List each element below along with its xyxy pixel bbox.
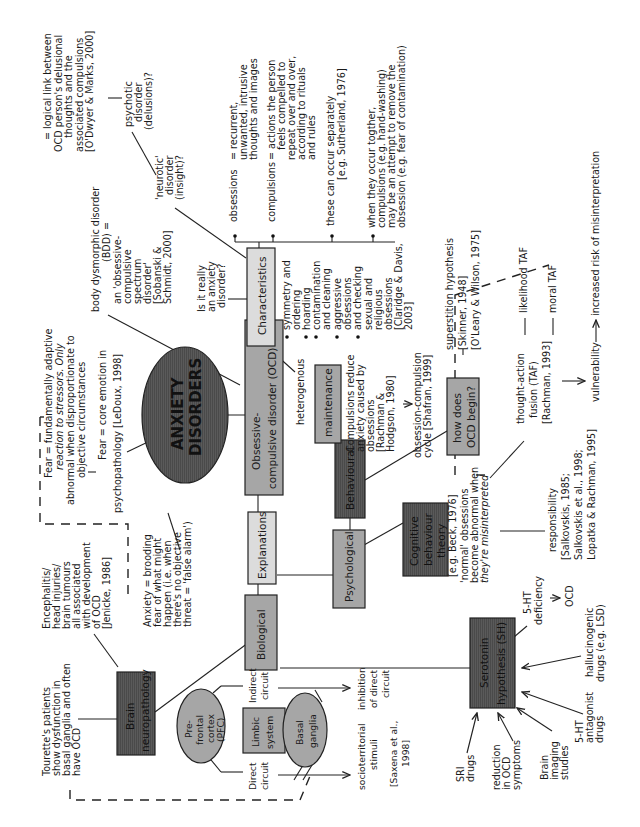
- svg-text:Direct: Direct: [247, 762, 258, 790]
- svg-text:and rules: and rules: [306, 115, 317, 160]
- svg-text:drugs: drugs: [594, 716, 605, 743]
- taf-note: thought-action fusion (TAF) [Rachman, 19…: [515, 341, 552, 424]
- characteristics-node: Characteristics: [247, 248, 275, 346]
- svg-text:Indirect: Indirect: [247, 668, 258, 703]
- svg-text:stimuli: stimuli: [368, 739, 379, 770]
- svg-text:and checking: and checking: [352, 266, 363, 330]
- biological-node: Biological: [245, 595, 277, 670]
- svg-text:Pre-: Pre-: [183, 720, 194, 738]
- svg-text:drugs (e.g. LSD): drugs (e.g. LSD): [595, 604, 606, 682]
- psychotic-note: psychotic disorder (delusions)?: [123, 72, 154, 130]
- svg-text:system: system: [264, 716, 275, 749]
- svg-text:Obsessive-: Obsessive-: [250, 413, 262, 470]
- svg-text:psychopathology [LeDoux, 1998]: psychopathology [LeDoux, 1998]: [112, 354, 123, 513]
- saxena-note: [Saxena et al., 1998]: [388, 720, 411, 787]
- 5ht-deficiency-note: 5-HT deficiency: [522, 576, 544, 625]
- svg-text:Characteristics: Characteristics: [256, 256, 268, 335]
- svg-text:and cleaning: and cleaning: [321, 268, 332, 330]
- svg-text:Serotonin: Serotonin: [478, 638, 490, 688]
- svg-text:[e.g. Beck, 1976]: [e.g. Beck, 1976]: [447, 495, 458, 577]
- svg-text:socioterritorial: socioterritorial: [356, 723, 367, 790]
- svg-text:= logical link between: = logical link between: [42, 33, 53, 140]
- svg-text:Salkovskis et al., 1998;: Salkovskis et al., 1998;: [573, 449, 584, 560]
- bdd-note: body dysmorphic disorder (BDD) = an 'obs…: [90, 187, 173, 312]
- svg-text:2003]: 2003]: [403, 302, 414, 330]
- psychological-node: Psychological: [333, 530, 365, 608]
- svg-text:Brain: Brain: [124, 702, 136, 730]
- compulsions-note: compulsions = actions the person feels c…: [266, 56, 317, 222]
- svg-text:heterogenous: heterogenous: [295, 359, 306, 425]
- svg-text:body dysmorphic disorder: body dysmorphic disorder: [90, 187, 101, 312]
- svg-text:they're misinterpreted: they're misinterpreted: [479, 474, 490, 583]
- socioterritorial-note: socioterritorial stimuli: [356, 723, 379, 790]
- svg-text:(PFC): (PFC): [215, 718, 226, 742]
- indirect-circuit-label: Indirect circuit: [247, 668, 270, 703]
- svg-text:disorder?: disorder?: [216, 264, 227, 308]
- svg-text:ganglia: ganglia: [307, 714, 318, 748]
- svg-text:obsession (e.g. fear of contam: obsession (e.g. fear of contamination): [396, 45, 407, 228]
- svg-text:Fear = fundamentally adaptive: Fear = fundamentally adaptive: [43, 329, 54, 478]
- svg-text:these can occur separately: these can occur separately: [325, 96, 336, 226]
- svg-text:Cognitive: Cognitive: [408, 516, 420, 566]
- svg-text:circuit: circuit: [259, 671, 270, 700]
- svg-text:symptoms: symptoms: [511, 740, 522, 790]
- svg-text:Biological: Biological: [255, 609, 267, 660]
- svg-text:abnormal when disproportionate: abnormal when disproportionate to: [65, 335, 76, 505]
- svg-text:Hodgson, 1980]: Hodgson, 1980]: [385, 376, 396, 452]
- fear-adaptive-note: Fear = fundamentally adaptive reaction t…: [43, 329, 87, 505]
- svg-text:vulnerability: vulnerability: [590, 342, 601, 402]
- svg-text:[Skinner, 1948]: [Skinner, 1948]: [457, 276, 468, 350]
- inhibition-note: inhibition of direct circuit: [356, 667, 391, 710]
- ocd-mind-map: ANXIETY DISORDERS Obsessive- compulsive …: [0, 0, 640, 827]
- svg-text:Psychological: Psychological: [343, 531, 355, 602]
- svg-text:of direct: of direct: [368, 670, 379, 708]
- responsibility-note: responsibility [Salkovskis, 1985; Salkov…: [547, 429, 597, 560]
- ocd-result-note: OCD: [564, 585, 575, 607]
- svg-text:(BDD) =: (BDD) =: [101, 222, 112, 262]
- svg-text:[Saxena et al.,: [Saxena et al.,: [388, 720, 399, 787]
- svg-text:[e.g. Sutherland, 1976]: [e.g. Sutherland, 1976]: [336, 68, 347, 180]
- separately-note: these can occur separately [e.g. Sutherl…: [325, 68, 347, 226]
- compulsions-reduce-note: Compulsions reduce anxiety caused by obs…: [345, 355, 396, 452]
- svg-text:increased risk of misinterpret: increased risk of misinterpretation: [590, 151, 601, 316]
- svg-text:thoughts and the: thoughts and the: [63, 55, 74, 138]
- how-ocd-begin-node: how does OCD begin?: [447, 378, 479, 455]
- sri-drugs-note: SRI drugs: [455, 755, 476, 782]
- svg-text:(insight)?: (insight)?: [174, 155, 185, 200]
- svg-text:reaction to stressors. Only: reaction to stressors. Only: [54, 343, 65, 470]
- svg-text:likelihood TAF: likelihood TAF: [518, 247, 529, 313]
- svg-text:have OCD: have OCD: [71, 728, 82, 776]
- svg-text:superstition hypothesis: superstition hypothesis: [444, 238, 455, 350]
- beck-note: [e.g. Beck, 1976]: [447, 495, 458, 577]
- svg-text:Limbic: Limbic: [250, 717, 261, 747]
- superstition-note: superstition hypothesis [Skinner, 1948] …: [444, 230, 481, 350]
- svg-text:OCD: OCD: [564, 585, 575, 607]
- anxiety-question-note: Is it really an anxiety disorder?: [196, 261, 227, 312]
- normal-obsessions-note: 'normal' obsessions become abnormal when…: [459, 467, 490, 583]
- svg-text:thoughts and images: thoughts and images: [248, 58, 259, 160]
- reduction-note: reduction in OCD symptoms: [491, 740, 522, 790]
- svg-text:cycle [Shafran, 1999]: cycle [Shafran, 1999]: [422, 355, 433, 458]
- 5ht-antagonist-note: 5-HT antagonist drugs: [574, 692, 605, 743]
- svg-text:maintenance: maintenance: [322, 368, 334, 437]
- together-note: when they occur togther, compulsions (e.…: [366, 45, 407, 228]
- svg-text:drugs: drugs: [465, 755, 476, 782]
- svg-text:threat = 'false alarm'): threat = 'false alarm'): [182, 521, 193, 627]
- svg-text:circuit: circuit: [380, 669, 391, 698]
- anxiety-disorders-node: ANXIETY DISORDERS: [142, 347, 228, 483]
- svg-text:objective circumstances: objective circumstances: [76, 362, 87, 478]
- title-line-2: DISORDERS: [187, 358, 205, 456]
- svg-text:compulsions: compulsions: [266, 162, 277, 222]
- svg-text:theory: theory: [435, 524, 447, 558]
- cbt-node: Cognitive behaviour theory: [403, 503, 448, 576]
- svg-text:frontal: frontal: [194, 715, 205, 745]
- svg-text:compulsive disorder (OCD): compulsive disorder (OCD): [266, 348, 278, 489]
- svg-text:[Jenicke, 1986]: [Jenicke, 1986]: [101, 557, 112, 629]
- svg-text:[Rachman, 1993]: [Rachman, 1993]: [541, 341, 552, 424]
- logical-link-note: = logical link between OCD person's delu…: [42, 31, 95, 152]
- tourette-note: Tourette's patients show dysfunction in …: [41, 663, 82, 777]
- svg-text:inhibition: inhibition: [356, 667, 367, 710]
- fear-core-note: Fear = core emotion in psychopathology […: [97, 350, 123, 513]
- svg-text:hallucinogenic: hallucinogenic: [584, 608, 595, 677]
- anxiety-note: Anxiety = brooding fear of what might ha…: [142, 521, 193, 627]
